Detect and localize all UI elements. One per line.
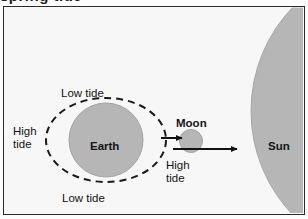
label-moon: Moon [176, 117, 207, 130]
sun-body [251, 7, 303, 213]
label-low-tide-bottom: Low tide [62, 192, 105, 205]
diagram-canvas [4, 7, 303, 213]
label-low-tide-top: Low tide [61, 87, 104, 100]
figure-frame: Low tide Low tide High tide High tide Ea… [3, 6, 305, 215]
label-high-tide-moon-side: High tide [166, 159, 190, 185]
label-high-tide-left: High tide [13, 125, 37, 151]
label-sun: Sun [268, 140, 290, 153]
clipped-caption-text: spring tide [0, 0, 308, 5]
label-earth: Earth [90, 140, 119, 153]
figure-page: spring tide [0, 0, 308, 219]
